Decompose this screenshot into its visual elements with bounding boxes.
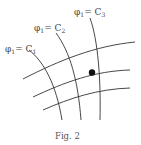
curve-phi-c1 xyxy=(29,50,62,120)
curvilinear-grid-figure: φ1= C1 φ1= C2 φ1= C3 Fig. 2 xyxy=(0,0,141,145)
cross-curve-bottom xyxy=(43,88,130,110)
curve-phi-c3 xyxy=(90,18,100,120)
marked-point xyxy=(89,69,95,75)
figure-caption: Fig. 2 xyxy=(55,131,80,141)
label-phi-c1: φ1= C1 xyxy=(5,44,36,55)
label-phi-c3: φ1= C3 xyxy=(74,7,105,18)
label-phi-c2: φ1= C2 xyxy=(34,23,65,34)
